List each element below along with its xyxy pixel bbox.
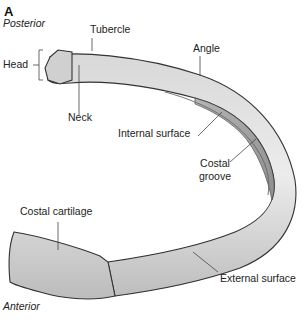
rib-diagram: A Posterior Anterior Tubercle Head Neck … (0, 0, 304, 323)
label-neck: Neck (68, 111, 92, 124)
orientation-posterior: Posterior (3, 17, 45, 29)
orientation-anterior: Anterior (3, 300, 40, 312)
label-external-surface: External surface (220, 272, 296, 285)
label-angle: Angle (193, 42, 220, 55)
label-costal-groove-line1: Costal (190, 157, 240, 170)
label-tubercle: Tubercle (90, 23, 130, 36)
label-head: Head (3, 58, 28, 71)
label-costal-groove-line2: groove (190, 170, 240, 183)
head-bracket (39, 50, 43, 80)
rib-head (45, 50, 72, 84)
costal-cartilage (9, 232, 115, 299)
label-costal-cartilage: Costal cartilage (20, 205, 92, 218)
label-internal-surface: Internal surface (118, 127, 190, 140)
label-costal-groove: Costal groove (190, 157, 240, 183)
internal-surface-leader (198, 112, 222, 136)
